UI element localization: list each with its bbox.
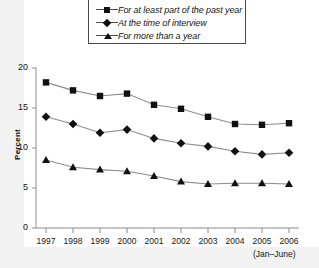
data-point-marker [231,147,240,156]
data-point-marker [258,150,267,159]
data-point-marker [124,90,130,96]
data-point-marker [42,113,51,122]
data-series-layer [42,79,294,187]
data-point-marker [151,102,157,108]
data-point-marker [204,142,213,151]
data-series [42,113,294,159]
data-point-marker [96,129,105,138]
data-point-marker [177,139,186,148]
data-point-marker [70,87,76,93]
data-point-marker [123,125,132,134]
data-point-marker [205,114,211,120]
data-series [43,79,292,128]
data-point-marker [43,79,49,85]
data-point-marker [97,93,103,99]
chart-figure: For at least part of the past year At th… [0,0,319,268]
data-series [42,156,293,187]
data-point-marker [232,121,238,127]
data-point-marker [42,156,50,163]
data-point-marker [259,122,265,128]
data-point-marker [150,134,159,143]
data-point-marker [69,120,78,129]
data-point-marker [178,106,184,112]
data-point-marker [285,149,294,158]
x-axis-note: (Jan–June) [253,249,296,259]
plot-area [0,0,319,268]
data-point-marker [286,120,292,126]
